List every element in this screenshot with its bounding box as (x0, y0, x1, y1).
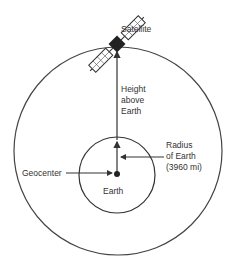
height-label-2: above (121, 95, 144, 106)
geocenter-label: Geocenter (22, 168, 62, 179)
geocenter-dot (114, 171, 120, 177)
satellite-label: Satellite (121, 24, 151, 35)
radius-label-1: Radius (166, 140, 192, 151)
height-label-1: Height (121, 84, 146, 95)
earth-label: Earth (103, 186, 123, 197)
height-label-3: Earth (121, 106, 141, 117)
radius-label-2: of Earth (166, 151, 196, 162)
radius-label-3: (3960 mi) (166, 162, 202, 173)
satellite-orbit-diagram (0, 0, 231, 267)
